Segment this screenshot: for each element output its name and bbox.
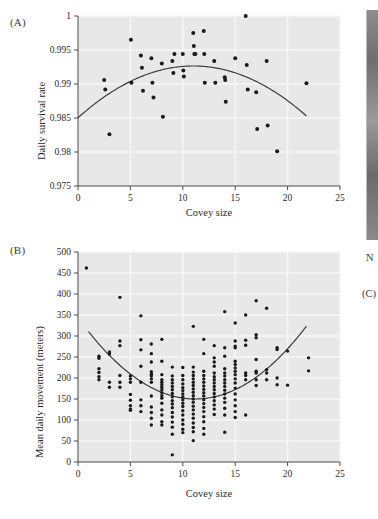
data-point xyxy=(223,354,226,357)
data-point xyxy=(202,433,205,436)
data-point xyxy=(160,338,163,341)
data-point xyxy=(192,408,195,411)
data-point xyxy=(202,384,205,387)
data-point xyxy=(192,44,196,48)
data-point xyxy=(108,386,111,389)
data-point xyxy=(254,378,257,381)
data-point xyxy=(149,56,153,60)
data-point xyxy=(234,321,237,324)
data-point xyxy=(213,395,216,398)
data-point xyxy=(307,369,310,372)
data-point xyxy=(213,378,216,381)
y-tick-label: 0.975 xyxy=(50,181,72,191)
data-point xyxy=(181,398,184,401)
data-point xyxy=(265,371,268,374)
data-point xyxy=(203,81,207,85)
data-point xyxy=(171,378,174,381)
data-point xyxy=(171,381,174,384)
data-point xyxy=(171,71,175,75)
data-point xyxy=(160,423,163,426)
panel-a-plot: 0.9750.980.9850.990.99510510152025 xyxy=(0,0,360,205)
data-point xyxy=(223,78,227,82)
data-point xyxy=(202,406,205,409)
data-point xyxy=(223,381,226,384)
data-point xyxy=(223,378,226,381)
data-point xyxy=(234,386,237,389)
data-point xyxy=(129,377,132,380)
data-point xyxy=(160,413,163,416)
data-point xyxy=(171,388,174,391)
data-point xyxy=(245,63,249,67)
data-point xyxy=(150,417,153,420)
data-point xyxy=(202,394,205,397)
data-point xyxy=(181,382,184,385)
data-point xyxy=(160,396,163,399)
data-point xyxy=(223,392,226,395)
data-point xyxy=(171,415,174,418)
data-point xyxy=(213,81,217,85)
data-point xyxy=(193,52,197,56)
data-point xyxy=(150,405,153,408)
data-point xyxy=(150,381,153,384)
data-point xyxy=(160,391,163,394)
x-tick-label: 15 xyxy=(230,469,240,479)
data-point xyxy=(254,336,257,339)
data-point xyxy=(139,404,142,407)
data-point xyxy=(234,404,237,407)
y-tick-label: 100 xyxy=(57,415,72,425)
data-point xyxy=(129,399,132,402)
data-point xyxy=(181,405,184,408)
data-point xyxy=(139,410,142,413)
data-point xyxy=(171,392,174,395)
data-point xyxy=(223,413,226,416)
data-point xyxy=(102,78,106,82)
data-point xyxy=(244,14,248,18)
data-point xyxy=(171,402,174,405)
data-point xyxy=(129,381,132,384)
data-point xyxy=(223,407,226,410)
x-tick-label: 0 xyxy=(76,193,81,203)
data-point xyxy=(213,381,216,384)
edge-artifact-c-label: (C) xyxy=(362,288,376,299)
data-point xyxy=(192,377,195,380)
data-point xyxy=(234,392,237,395)
data-point xyxy=(150,374,153,377)
data-point xyxy=(202,415,205,418)
data-point xyxy=(275,383,278,386)
data-point xyxy=(141,89,145,93)
data-point xyxy=(192,397,195,400)
data-point xyxy=(265,307,268,310)
data-point xyxy=(150,394,153,397)
data-point xyxy=(202,391,205,394)
data-point xyxy=(234,373,237,376)
data-point xyxy=(275,348,278,351)
data-point xyxy=(118,296,121,299)
data-point xyxy=(265,59,269,63)
data-point xyxy=(202,338,205,341)
data-point xyxy=(202,52,206,56)
data-point xyxy=(191,31,195,35)
data-point xyxy=(223,371,226,374)
data-point xyxy=(160,373,163,376)
data-point xyxy=(254,358,257,361)
data-point xyxy=(108,352,111,355)
y-tick-label: 0.985 xyxy=(50,113,72,123)
data-point xyxy=(139,348,142,351)
data-point xyxy=(150,352,153,355)
data-point xyxy=(192,325,195,328)
data-point xyxy=(192,384,195,387)
data-point xyxy=(181,378,184,381)
data-point xyxy=(170,59,174,63)
x-tick-label: 5 xyxy=(128,193,133,203)
data-point xyxy=(202,410,205,413)
data-point xyxy=(234,381,237,384)
x-tick-label: 25 xyxy=(335,469,345,479)
y-tick-label: 50 xyxy=(62,436,72,446)
data-point xyxy=(97,371,100,374)
data-point xyxy=(129,374,132,377)
data-point xyxy=(223,388,226,391)
data-point xyxy=(192,370,195,373)
data-point xyxy=(97,357,100,360)
data-point xyxy=(160,360,163,363)
